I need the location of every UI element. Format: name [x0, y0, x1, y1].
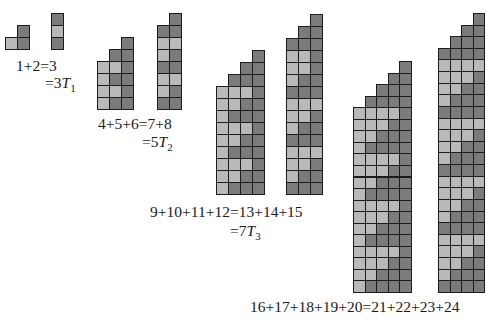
triangular-identity-label: =7T3 — [230, 222, 261, 245]
equation-label: 16+17+18+19+20=21+22+23+24 — [250, 298, 459, 316]
triangular-number-symbol: T — [247, 222, 256, 239]
triangular-number-symbol: T — [62, 74, 71, 91]
equation-label: 1+2=3 — [16, 57, 57, 75]
dark-square — [473, 280, 486, 293]
triangular-identity-label: =5T2 — [142, 133, 173, 156]
identity-subscript: 2 — [167, 141, 173, 153]
equation-label: 4+5+6=7+8 — [98, 115, 172, 133]
equation-label: 9+10+11+12=13+14+15 — [150, 203, 303, 221]
dark-square — [399, 280, 412, 293]
dark-square — [51, 37, 64, 50]
identity-prefix: =5 — [142, 133, 159, 150]
triangular-number-symbol: T — [159, 133, 168, 150]
dark-square — [17, 37, 30, 50]
dark-square — [169, 97, 182, 110]
identity-prefix: =3 — [45, 74, 62, 91]
identity-subscript: 1 — [70, 82, 76, 94]
identity-prefix: =7 — [230, 222, 247, 239]
identity-subscript: 3 — [255, 230, 261, 242]
dark-square — [121, 97, 134, 110]
dark-square — [310, 182, 323, 195]
dark-square — [252, 182, 265, 195]
triangular-identity-label: =3T1 — [45, 74, 76, 97]
